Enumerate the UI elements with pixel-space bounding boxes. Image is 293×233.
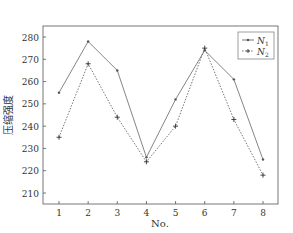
- x-tick-label: 8: [260, 208, 266, 218]
- y-tick-label: 270: [22, 55, 39, 65]
- y-tick-label: 220: [22, 166, 39, 176]
- x-tick-label: 2: [85, 208, 91, 218]
- line-chart: 210220230240250260270280 12345678 No. 压缩…: [0, 0, 293, 233]
- y-tick-label: 210: [22, 189, 39, 199]
- x-tick-label: 4: [144, 208, 150, 218]
- dot-marker-icon: [145, 156, 147, 158]
- y-tick-label: 250: [22, 99, 39, 109]
- dot-marker-icon: [247, 39, 249, 41]
- x-tick-label: 5: [173, 208, 179, 218]
- y-tick-label: 260: [22, 77, 39, 87]
- x-tick-label: 7: [231, 208, 237, 218]
- dot-marker-icon: [262, 158, 264, 160]
- x-tick-label: 6: [202, 208, 208, 218]
- legend: N1N2: [238, 32, 274, 59]
- dot-marker-icon: [87, 40, 89, 42]
- dot-marker-icon: [116, 69, 118, 71]
- y-tick-label: 280: [22, 33, 39, 43]
- y-tick-label: 240: [22, 122, 39, 132]
- y-axis: 210220230240250260270280: [22, 33, 46, 199]
- x-tick-label: 1: [56, 208, 62, 218]
- dot-marker-icon: [174, 98, 176, 100]
- dot-marker-icon: [58, 92, 60, 94]
- y-axis-label: 压缩强度: [2, 95, 14, 135]
- x-tick-label: 3: [114, 208, 120, 218]
- x-axis-label: No.: [151, 218, 169, 229]
- dot-marker-icon: [233, 78, 235, 80]
- y-tick-label: 230: [22, 144, 39, 154]
